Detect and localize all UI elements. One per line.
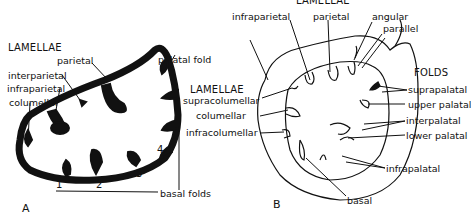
figure-a-lamellae-header: LAMELLAE	[8, 42, 62, 53]
fold-number-4: 4	[157, 145, 163, 155]
figure-b-lamellae-top-header: LAMELLAE	[296, 0, 350, 6]
label-angular: angular	[372, 12, 408, 22]
fold-number-1: 1	[56, 180, 62, 190]
label-upper-palatal: upper palatal	[408, 100, 471, 110]
fold-number-3: 3	[136, 169, 142, 179]
fold-number-5: 5	[172, 121, 178, 131]
label-columellar-a: columellar	[9, 98, 59, 108]
label-palatal-fold: palatal fold	[158, 55, 211, 65]
label-infrapalatal: infrapalatal	[386, 164, 440, 174]
figure-b-lamellae-left-header: LAMELLAE	[190, 84, 244, 95]
label-infracolumellar: infracolumellar	[186, 128, 258, 138]
label-suprapalatal: suprapalatal	[408, 85, 467, 95]
panel-label-a: A	[22, 203, 30, 214]
label-infraparietal-b: infraparietal	[232, 12, 290, 22]
panel-label-b: B	[273, 199, 281, 210]
label-basal: basal	[347, 196, 372, 206]
label-parietal-a: parietal	[57, 56, 93, 66]
label-parietal-b: parietal	[313, 12, 349, 22]
figure-b-folds-header: FOLDS	[414, 67, 448, 78]
figure-b-leaders	[250, 20, 407, 196]
label-basal-folds: basal folds	[160, 189, 211, 199]
label-interpalatal: interpalatal	[406, 116, 461, 126]
label-parallel: parallel	[383, 24, 418, 34]
label-infraparietal-a: infraparietal	[7, 84, 65, 94]
fold-number-2: 2	[96, 180, 102, 190]
label-lower-palatal: lower palatal	[406, 131, 468, 141]
label-columellar-b: columellar	[196, 111, 246, 121]
label-supracolumellar: supracolumellar	[183, 96, 260, 106]
label-interparietal-a: interparietal	[8, 71, 67, 81]
